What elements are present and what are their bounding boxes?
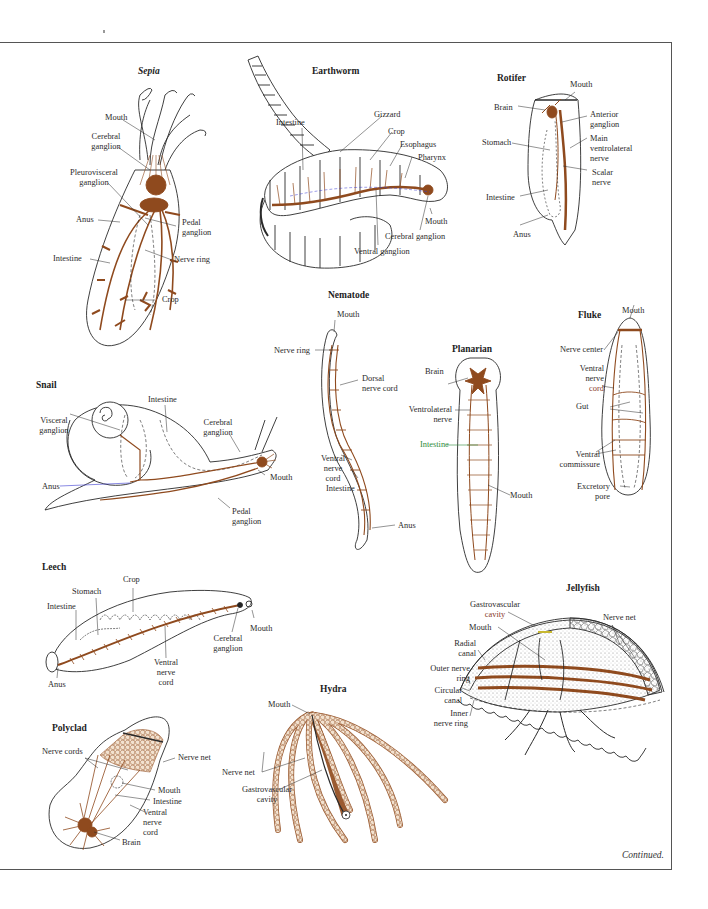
label-polyclad-brain: Brain	[122, 838, 141, 848]
label-snail-visceral: Visceral	[36, 416, 72, 426]
label-jellyfish-nerve-net: Nerve net	[603, 613, 636, 623]
label-snail-mouth: Mouth	[270, 473, 292, 483]
label-fluke-excretory: Excretory	[572, 482, 610, 492]
label-rotifer-main: Main	[590, 134, 608, 144]
label-rotifer-ventrolateral: ventrolateral	[590, 144, 632, 154]
label-rotifer-stomach: Stomach	[482, 138, 511, 148]
label-planarian-ventrolateral-2: nerve	[396, 415, 452, 425]
hydra-diagram	[262, 705, 445, 840]
label-rotifer-anus: Anus	[513, 230, 531, 240]
label-hydra-gastrovascular-2: cavity	[236, 795, 298, 805]
label-polyclad-nerve-net: Nerve net	[178, 753, 211, 763]
label-sepia-pedal-2: ganglion	[182, 228, 211, 238]
label-sepia-nerve-ring: Nerve ring	[174, 255, 210, 265]
label-leech-ventral-3: cord	[150, 678, 182, 688]
label-leech-ventral-2: nerve	[150, 668, 182, 678]
label-jellyfish-mouth: Mouth	[469, 623, 491, 633]
label-nematode-dorsal: Dorsal	[362, 374, 384, 384]
snail-diagram	[45, 402, 277, 510]
label-hydra-nerve-net: Nerve net	[222, 768, 255, 778]
label-leech-cerebral: Cerebral	[210, 634, 246, 644]
planarian-diagram	[447, 358, 510, 572]
label-fluke-ventral-commissure-2: commissure	[554, 460, 600, 470]
label-sepia-cerebral: Cerebral	[86, 132, 126, 142]
label-earthworm-crop: Crop	[388, 127, 405, 137]
label-sepia-anus: Anus	[76, 215, 94, 225]
label-planarian-brain: Brain	[425, 367, 444, 377]
label-jellyfish-gastrovascular-2: cavity	[465, 610, 525, 620]
title-nematode: Nematode	[328, 290, 369, 300]
label-fluke-gut: Gut	[576, 402, 589, 412]
continued-note: Continued.	[622, 850, 664, 860]
label-fluke-ventral: Ventral	[566, 364, 604, 374]
label-polyclad-mouth: Mouth	[158, 786, 180, 796]
label-rotifer-brain: Brain	[494, 103, 513, 113]
label-snail-intestine: Intestine	[148, 395, 177, 405]
label-sepia-intestine: Intestine	[53, 254, 82, 264]
label-sepia-crop: Crop	[162, 295, 179, 305]
label-jellyfish-radial: Radial	[440, 639, 476, 649]
label-rotifer-nerve: nerve	[590, 154, 609, 164]
label-sepia-pleurovisceral-2: ganglion	[64, 178, 124, 188]
label-jellyfish-gastrovascular: Gastrovascular	[465, 600, 525, 610]
label-fluke-nerve-center: Nerve center	[560, 345, 603, 355]
label-nematode-ventral-2: nerve	[318, 464, 348, 474]
label-jellyfish-outer-nerve-2: ring	[420, 674, 470, 684]
label-sepia-pedal: Pedal	[182, 218, 201, 228]
label-polyclad-nerve-cords: Nerve cords	[42, 747, 83, 757]
label-jellyfish-inner-2: nerve ring	[420, 719, 468, 729]
label-earthworm-mouth: Mouth	[425, 217, 447, 227]
label-fluke-ventral-commissure: Ventral	[554, 450, 600, 460]
label-snail-pedal: Pedal	[232, 507, 251, 517]
label-fluke-mouth: Mouth	[622, 306, 644, 316]
label-earthworm-pharynx: Pharynx	[418, 153, 446, 163]
label-fluke-excretory-2: pore	[572, 492, 610, 502]
label-nematode-mouth: Mouth	[337, 310, 359, 320]
label-polyclad-ventral-2: nerve	[143, 818, 162, 828]
label-snail-cerebral-2: ganglion	[200, 428, 236, 438]
jellyfish-diagram	[458, 612, 664, 761]
label-leech-intestine: Intestine	[47, 602, 76, 612]
rotifer-diagram	[512, 92, 587, 245]
fluke-diagram	[596, 305, 650, 495]
label-leech-stomach: Stomach	[72, 587, 101, 597]
label-snail-cerebral: Cerebral	[200, 418, 236, 428]
label-hydra-gastrovascular: Gastrovascular	[236, 785, 298, 795]
label-leech-cerebral-2: ganglion	[210, 644, 246, 654]
label-polyclad-intestine: Intestine	[153, 797, 182, 807]
label-rotifer-scalar: Scalar	[592, 168, 613, 178]
label-sepia-cerebral-2: ganglion	[86, 142, 126, 152]
label-snail-pedal-2: ganglion	[232, 517, 261, 527]
label-rotifer-intestine: Intestine	[486, 193, 515, 203]
label-planarian-intestine: Intestine	[420, 440, 449, 450]
title-sepia: Sepia	[138, 66, 160, 76]
label-jellyfish-inner: Inner	[420, 709, 468, 719]
label-earthworm-gizzard: Gizzard	[374, 110, 401, 120]
nematode-diagram	[315, 320, 395, 549]
label-rotifer-anterior: Anterior	[590, 110, 618, 120]
title-jellyfish: Jellyfish	[566, 583, 600, 593]
title-leech: Leech	[42, 562, 66, 572]
label-leech-anus: Anus	[48, 680, 66, 690]
label-jellyfish-outer-nerve: Outer nerve	[420, 664, 470, 674]
title-fluke: Fluke	[578, 310, 601, 320]
label-sepia-pleurovisceral: Pleurovisceral	[64, 168, 124, 178]
label-earthworm-esophagus: Esophagus	[400, 140, 436, 150]
title-snail: Snail	[36, 380, 57, 390]
label-polyclad-ventral-3: cord	[143, 828, 158, 838]
label-planarian-mouth: Mouth	[510, 491, 532, 501]
label-leech-mouth: Mouth	[250, 624, 272, 634]
label-jellyfish-circular-2: canal	[420, 696, 462, 706]
label-leech-ventral: Ventral	[150, 658, 182, 668]
title-hydra: Hydra	[320, 684, 346, 694]
label-rotifer-scalar-2: nerve	[592, 178, 611, 188]
label-fluke-ventral-2: nerve	[566, 374, 604, 384]
label-rotifer-anterior-2: ganglion	[590, 120, 619, 130]
label-nematode-nerve-ring: Nerve ring	[274, 346, 310, 356]
label-rotifer-mouth: Mouth	[570, 80, 592, 90]
label-earthworm-intestine: Intestine	[276, 118, 305, 128]
label-nematode-ventral: Ventral	[318, 454, 348, 464]
label-polyclad-ventral: Ventral	[143, 808, 167, 818]
title-earthworm: Earthworm	[312, 66, 360, 76]
label-jellyfish-radial-2: canal	[440, 649, 476, 659]
